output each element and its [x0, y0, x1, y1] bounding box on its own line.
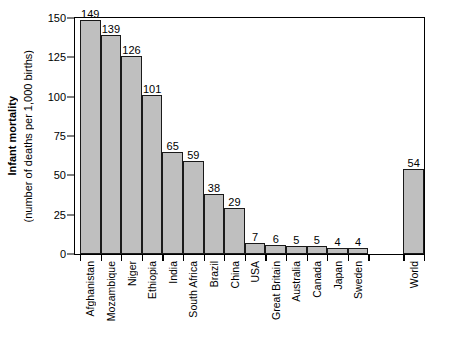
y-axis-tick-label: 150	[48, 12, 66, 24]
y-axis-tick	[67, 214, 74, 215]
bar-great-britain: 6	[265, 245, 286, 254]
y-axis-tick-label: 125	[48, 51, 66, 63]
bar-value-label: 7	[252, 231, 258, 243]
y-axis-tick-label: 0	[60, 248, 66, 260]
x-axis-label-china: China	[229, 261, 241, 288]
bar-value-label: 101	[143, 83, 161, 95]
bar-japan: 4	[327, 248, 348, 254]
bar-value-label: 38	[208, 182, 220, 194]
y-axis-tick-marks	[67, 0, 74, 348]
y-axis-tick-label: 75	[54, 130, 66, 142]
x-axis-label-afghanistan: Afghanistan	[84, 261, 96, 316]
bar-world: 54	[403, 169, 424, 254]
x-axis-label-mozambique: Mozambique	[105, 261, 117, 321]
y-axis-tick-label: 25	[54, 209, 66, 221]
y-axis-tick	[67, 175, 74, 176]
bar-south-africa: 59	[183, 161, 204, 254]
x-axis-tick	[424, 255, 425, 261]
x-axis-label-sweden: Sweden	[352, 261, 364, 299]
bar-niger: 126	[121, 56, 142, 254]
x-axis-label-australia: Australia	[290, 261, 302, 302]
bar-value-label: 149	[81, 8, 99, 20]
y-axis-tick-label: 100	[48, 91, 66, 103]
y-axis-title: Infant mortality (number of deaths per 1…	[2, 17, 38, 255]
y-axis-tick	[67, 57, 74, 58]
y-axis-tick	[67, 18, 74, 19]
bar-value-label: 65	[167, 140, 179, 152]
x-axis-label-usa: USA	[249, 261, 261, 283]
bars-layer: 1491391261016559382976554454	[75, 18, 424, 254]
bar-value-label: 29	[228, 196, 240, 208]
bar-brazil: 38	[204, 194, 225, 254]
bar-australia: 5	[286, 246, 307, 254]
y-axis-tick	[67, 254, 74, 255]
bar-mozambique: 139	[101, 35, 122, 254]
y-axis-tick	[67, 136, 74, 137]
y-axis-tick-labels: 0255075100125150	[38, 0, 66, 348]
bar-india: 65	[162, 152, 183, 254]
x-axis-label-world: World	[408, 261, 420, 288]
bar-sweden: 4	[348, 248, 369, 254]
bar-value-label: 59	[187, 149, 199, 161]
x-axis-label-canada: Canada	[311, 261, 323, 298]
infant-mortality-bar-chart: Infant mortality (number of deaths per 1…	[0, 0, 455, 348]
y-axis-title-line-1: Infant mortality	[4, 96, 20, 175]
x-axis-label-south-africa: South Africa	[187, 261, 199, 318]
bar-value-label: 5	[314, 234, 320, 246]
bar-value-label: 4	[355, 236, 361, 248]
bar-value-label: 5	[293, 234, 299, 246]
bar-canada: 5	[307, 246, 328, 254]
bar-ethiopia: 101	[142, 95, 163, 254]
x-axis-label-india: India	[167, 261, 179, 284]
bar-china: 29	[224, 208, 245, 254]
x-axis-label-japan: Japan	[332, 261, 344, 290]
y-axis-tick	[67, 96, 74, 97]
bar-value-label: 139	[102, 23, 120, 35]
bar-value-label: 54	[408, 157, 420, 169]
bar-value-label: 126	[122, 44, 140, 56]
y-axis-tick-label: 50	[54, 169, 66, 181]
bar-value-label: 6	[273, 233, 279, 245]
y-axis-title-line-2: (number of deaths per 1,000 births)	[20, 50, 36, 222]
x-axis-label-great-britain: Great Britain	[270, 261, 282, 320]
bar-afghanistan: 149	[80, 20, 101, 254]
x-axis-label-ethiopia: Ethiopia	[146, 261, 158, 299]
bar-usa: 7	[245, 243, 266, 254]
bar-value-label: 4	[334, 236, 340, 248]
x-axis-label-brazil: Brazil	[208, 261, 220, 287]
x-axis-label-niger: Niger	[126, 261, 138, 286]
x-axis-category-labels: AfghanistanMozambiqueNigerEthiopiaIndiaS…	[75, 261, 424, 348]
